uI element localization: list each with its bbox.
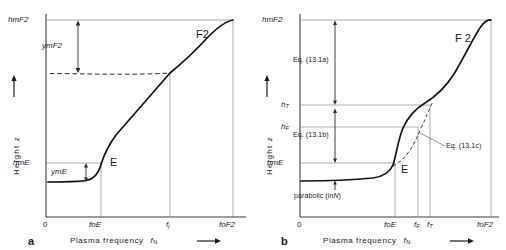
panel-a-ymF2-arrow [76, 21, 81, 74]
panel-b-x-axis-label-text: Plasma frequency [323, 236, 397, 245]
panel-b-profile-curve [301, 20, 491, 181]
panel-a-y-axis-arrow [11, 75, 16, 97]
panel-b-x-axis-symbol-sub: N [406, 239, 411, 245]
panel-b-y-axis-label-text: Height z [265, 136, 274, 175]
panel-b-annotation-parabolic: parabolic (inN) [294, 192, 341, 199]
panel-b-y-axis-arrow [264, 75, 269, 97]
panel-a-x-axis-label-text: Plasma frequency [70, 236, 144, 245]
panel-b-xtick-fT-sub: T [429, 223, 433, 229]
panel-a-svg [0, 0, 253, 250]
panel-b-xtick-foF2: foF2 [477, 221, 493, 229]
panel-b-xtick-fF: fF [414, 221, 420, 230]
panel-b-ytick-hF-sub: F [285, 125, 289, 131]
panel-b-annotation-eq-13-1b: Eq. (13.1b) [293, 131, 329, 138]
panel-b-region-E: E [401, 164, 408, 175]
panel-b-letter: b [281, 236, 288, 247]
panel-b-x-axis-arrow [450, 238, 474, 243]
panel-a-measure-ymE: ymE [51, 168, 67, 176]
panel-b-annotation-parabolic-main: parabolic (in [294, 192, 333, 199]
panel-b-ytick-hT: hT [281, 101, 289, 110]
panel-b-xtick-fT: fT [427, 221, 433, 230]
panel-a-y-axis-label-text: Height z [12, 136, 21, 175]
panel-a-x-axis-arrow [197, 238, 221, 243]
panel-b-parabolic-arrow [333, 181, 337, 191]
panel-a-region-E: E [110, 157, 117, 168]
panel-b-y-axis-label: Height z [265, 136, 274, 175]
panel-b-region-F2: F 2 [455, 33, 471, 44]
panel-a-xtick-foF2: foF2 [219, 221, 235, 229]
panel-b-xtick-fF-sub: F [416, 223, 420, 229]
panel-a-letter: a [28, 236, 34, 247]
panel-a-xtick-foE: foE [89, 221, 101, 229]
panel-a-ymE-arrow [84, 163, 88, 182]
panel-a-f2-dashed-extension [50, 73, 170, 74]
panel-b-chart: hmF2 hT hF hmE Eq. (13.1a) Eq. (13.1b) E… [253, 0, 506, 250]
panel-a-xtick-fj: fj [166, 221, 170, 230]
panel-b-eq131a-arrow [333, 21, 337, 106]
panel-a-measure-ymF2: ymF2 [42, 42, 62, 50]
panel-b-annotation-parabolic-tail: ) [339, 192, 341, 199]
panel-a-profile-curve [48, 20, 233, 182]
panel-b-eq131c-dashed-curve [393, 101, 433, 166]
panel-a-x-axis-symbol-sub: N [153, 239, 158, 245]
panel-b-eq131c-leader [420, 133, 445, 146]
panel-b-xtick-foE: foE [384, 221, 396, 229]
panel-b-ytick-hT-sub: T [285, 103, 289, 109]
panel-b-ytick-hmF2: hmF2 [262, 16, 282, 24]
panel-b-eq131b-arrow [333, 109, 337, 164]
panel-b-ytick-hF: hF [281, 123, 289, 132]
panel-a-region-F2: F2 [196, 29, 209, 40]
panel-a-ytick-hmF2: hmF2 [8, 16, 28, 24]
panel-b-x-axis-label: Plasma frequency fN [323, 237, 411, 246]
panel-a-xtick-fj-sub: j [168, 223, 169, 229]
panel-b-annotation-eq-13-1c: Eq. (13.1c) [446, 142, 481, 149]
panel-a-chart: hmF2 hmE ymF2 ymE F2 E 0 foE fj foF2 Hei… [0, 0, 253, 250]
panel-b-annotation-eq-13-1a: Eq. (13.1a) [293, 56, 329, 63]
panel-a-x-axis-label: Plasma frequency fN [70, 237, 158, 246]
panel-b-xtick-zero: 0 [297, 221, 301, 229]
panel-a-xtick-zero: 0 [43, 221, 47, 229]
panel-a-y-axis-label: Height z [12, 136, 21, 175]
